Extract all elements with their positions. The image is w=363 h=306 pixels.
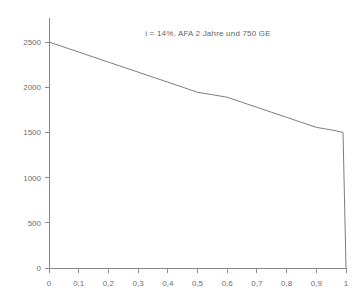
x-axis-tick-label: 0,1 <box>73 279 85 288</box>
x-axis-tick-label: 0,4 <box>162 279 174 288</box>
axes-group <box>49 18 347 268</box>
y-axis-tick-label: 2500 <box>23 38 41 47</box>
y-axis-tick-label: 1500 <box>23 128 41 137</box>
chart-container: 05001000150020002500 00,10,20,30,40,50,6… <box>0 0 363 306</box>
x-axis-tick-label: 0,9 <box>311 279 323 288</box>
data-series-line <box>49 42 346 268</box>
x-axis-tick-label: 0,7 <box>251 279 263 288</box>
chart-plot-area: 05001000150020002500 00,10,20,30,40,50,6… <box>0 0 363 306</box>
x-axis-tick-label: 1 <box>344 279 349 288</box>
x-axis-tick-label: 0,8 <box>281 279 293 288</box>
x-axis-tick-label: 0,5 <box>192 279 204 288</box>
x-axis-tick-label: 0,2 <box>103 279 115 288</box>
y-axis-ticks: 05001000150020002500 <box>23 38 50 273</box>
x-axis-tick-label: 0,6 <box>222 279 234 288</box>
y-axis-tick-label: 500 <box>28 219 42 228</box>
data-series-group <box>49 42 346 268</box>
y-axis-tick-label: 0 <box>37 264 42 273</box>
x-axis-tick-label: 0,3 <box>133 279 145 288</box>
x-axis-ticks: 00,10,20,30,40,50,60,70,80,91 <box>47 268 349 288</box>
x-axis-tick-label: 0 <box>47 279 52 288</box>
chart-title: i = 14%, AFA 2 Jahre und 750 GE <box>145 29 271 38</box>
y-axis-tick-label: 2000 <box>23 83 41 92</box>
y-axis-tick-label: 1000 <box>23 174 41 183</box>
